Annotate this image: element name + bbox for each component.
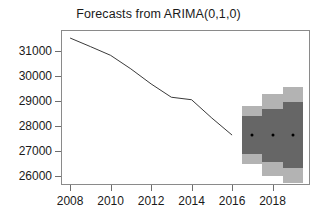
- y-tick-label: 31000: [19, 44, 52, 58]
- x-tick-label: 2010: [97, 194, 124, 208]
- y-tick-mark: [55, 51, 61, 52]
- x-tick-label: 2012: [138, 194, 165, 208]
- y-tick-label: 26000: [19, 169, 52, 183]
- forecast-chart: Forecasts from ARIMA(0,1,0) 260002700028…: [0, 0, 317, 217]
- x-tick-mark: [70, 185, 71, 191]
- x-tick-label: 2018: [259, 194, 286, 208]
- x-tick-mark: [232, 185, 233, 191]
- y-tick-label: 28000: [19, 119, 52, 133]
- y-tick-label: 29000: [19, 94, 52, 108]
- x-tick-label: 2008: [57, 194, 84, 208]
- x-tick-mark: [273, 185, 274, 191]
- y-tick-mark: [55, 101, 61, 102]
- y-axis: 260002700028000290003000031000: [0, 0, 317, 217]
- y-tick-mark: [55, 126, 61, 127]
- x-tick-label: 2014: [178, 194, 205, 208]
- y-tick-label: 27000: [19, 144, 52, 158]
- y-tick-mark: [55, 76, 61, 77]
- x-tick-mark: [111, 185, 112, 191]
- y-tick-mark: [55, 176, 61, 177]
- y-tick-mark: [55, 151, 61, 152]
- x-tick-mark: [151, 185, 152, 191]
- x-tick-label: 2016: [219, 194, 246, 208]
- x-tick-mark: [192, 185, 193, 191]
- y-tick-label: 30000: [19, 69, 52, 83]
